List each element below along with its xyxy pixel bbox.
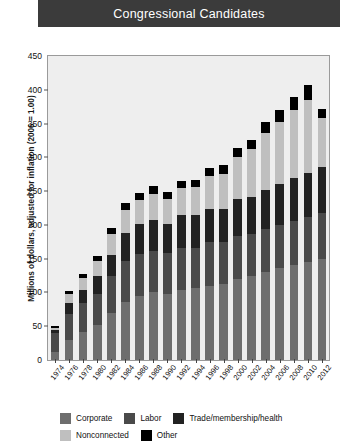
bar-segment-trade-membership-health [205, 209, 214, 243]
bar-segment-nonconnected [149, 194, 158, 220]
legend-item-nonconnected[interactable]: Nonconnected [60, 430, 129, 441]
bar-segment-nonconnected [275, 122, 284, 184]
x-tick-mark [210, 359, 211, 363]
bar-segment-other [135, 193, 144, 200]
legend-item-other[interactable]: Other [141, 430, 177, 441]
x-axis-labels: 1974197619781980198219841986198819901992… [47, 363, 330, 399]
bar-segment-labor [163, 253, 172, 294]
bar-segment-nonconnected [51, 328, 60, 330]
legend-label: Other [157, 431, 177, 440]
bar-segment-nonconnected [93, 261, 102, 276]
bar-segment-trade-membership-health [107, 255, 116, 277]
legend-label: Nonconnected [76, 431, 129, 440]
bar-segment-other [121, 203, 130, 210]
x-tick-mark [294, 359, 295, 363]
y-tick-mark [44, 326, 48, 327]
x-tick-label-1982: 1982 [105, 363, 123, 382]
bar-segment-labor [261, 229, 270, 272]
bar-segment-corporate [275, 268, 284, 360]
bar-segment-labor [318, 213, 327, 259]
legend-label: Trade/membership/health [189, 414, 282, 423]
bar-segment-other [149, 186, 158, 193]
x-tick-label-1980: 1980 [91, 363, 109, 382]
bar-segment-trade-membership-health [219, 209, 228, 243]
x-tick-label-2010: 2010 [302, 363, 320, 382]
bar-segment-corporate [163, 294, 172, 360]
bar-segment-nonconnected [219, 174, 228, 209]
bar-segment-nonconnected [205, 176, 214, 208]
bar-segment-trade-membership-health [191, 215, 200, 247]
y-tick-mark [44, 292, 48, 293]
x-tick-mark [153, 359, 154, 363]
bar-segment-corporate [233, 279, 242, 360]
bar-1980 [93, 256, 102, 360]
x-tick-label-1994: 1994 [189, 363, 207, 382]
x-tick-mark [69, 359, 70, 363]
bar-segment-labor [135, 254, 144, 296]
chart-container: Millions of dollars, adjusted for inflat… [0, 27, 340, 421]
legend-item-corporate[interactable]: Corporate [60, 413, 112, 424]
bar-segment-labor [290, 221, 299, 266]
x-tick-label-2004: 2004 [259, 363, 277, 382]
bar-2012 [318, 109, 327, 360]
bar-segment-corporate [93, 325, 102, 360]
bar-1986 [135, 193, 144, 360]
bar-segment-nonconnected [261, 133, 270, 190]
chart-title-banner: Congressional Candidates [38, 0, 340, 27]
x-tick-mark [55, 359, 56, 363]
bar-1982 [107, 228, 116, 360]
x-tick-label-1976: 1976 [63, 363, 81, 382]
x-tick-label-1974: 1974 [49, 363, 67, 382]
x-tick-label-2008: 2008 [287, 363, 305, 382]
bar-segment-labor [275, 225, 284, 268]
legend-item-labor[interactable]: Labor [124, 413, 161, 424]
bar-segment-corporate [149, 292, 158, 360]
legend-swatch-trade [173, 413, 184, 424]
bar-segment-other [205, 168, 214, 176]
x-tick-mark [266, 359, 267, 363]
x-tick-label-2000: 2000 [231, 363, 249, 382]
bar-segment-other [304, 85, 313, 100]
legend-swatch-labor [124, 413, 135, 424]
x-tick-label-1984: 1984 [119, 363, 137, 382]
bar-segment-labor [149, 251, 158, 293]
x-tick-mark [181, 359, 182, 363]
bar-segment-corporate [65, 340, 74, 360]
bar-segment-trade-membership-health [51, 330, 60, 333]
x-tick-mark [196, 359, 197, 363]
bar-segment-labor [65, 314, 74, 340]
x-tick-mark [167, 359, 168, 363]
bar-segment-nonconnected [304, 100, 313, 173]
bar-segment-nonconnected [163, 199, 172, 223]
bar-segment-trade-membership-health [135, 224, 144, 254]
bar-segment-nonconnected [135, 200, 144, 224]
x-tick-mark [322, 359, 323, 363]
x-tick-mark [308, 359, 309, 363]
x-tick-label-2006: 2006 [273, 363, 291, 382]
x-tick-label-1996: 1996 [203, 363, 221, 382]
bar-segment-other [233, 148, 242, 157]
x-tick-label-1992: 1992 [175, 363, 193, 382]
bar-segment-corporate [219, 284, 228, 360]
bar-segment-corporate [79, 332, 88, 360]
x-tick-label-1998: 1998 [217, 363, 235, 382]
bar-2000 [233, 148, 242, 360]
x-tick-mark [238, 359, 239, 363]
bar-segment-trade-membership-health [93, 276, 102, 294]
bar-segment-other [275, 110, 284, 122]
bar-segment-other [163, 192, 172, 199]
x-tick-label-1988: 1988 [147, 363, 165, 382]
bar-segment-nonconnected [177, 188, 186, 215]
legend-label: Corporate [76, 414, 112, 423]
bar-segment-other [191, 180, 200, 187]
legend-label: Labor [140, 414, 161, 423]
bar-segment-corporate [318, 259, 327, 360]
bar-segment-corporate [135, 296, 144, 360]
bar-segment-labor [191, 248, 200, 289]
y-tick-mark [44, 191, 48, 192]
y-tick-mark [44, 157, 48, 158]
x-tick-label-2012: 2012 [316, 363, 334, 382]
legend-item-trade-membership-health[interactable]: Trade/membership/health [173, 413, 282, 424]
x-tick-mark [125, 359, 126, 363]
bar-segment-nonconnected [65, 294, 74, 303]
